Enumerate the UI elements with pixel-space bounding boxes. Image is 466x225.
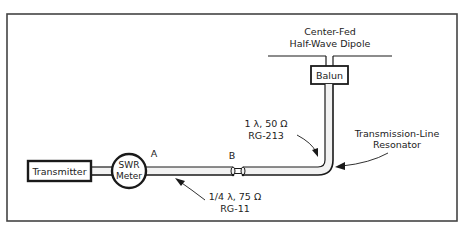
diagram-frame xyxy=(7,14,457,221)
swr-meter-label-line2: Meter xyxy=(116,171,142,181)
one-wave-label-line2: RG-213 xyxy=(248,130,284,141)
point-b-label: B xyxy=(229,150,236,161)
point-a-label: A xyxy=(151,148,158,159)
resonator-label-line2: Resonator xyxy=(373,139,421,150)
one-wave-label-line1: 1 λ, 50 Ω xyxy=(244,118,287,129)
transmitter-label: Transmitter xyxy=(31,166,86,177)
transmitter-swr-cable xyxy=(92,167,112,175)
resonator-label-line1: Transmission-Line xyxy=(354,128,440,139)
swr-meter-label-line1: SWR xyxy=(119,160,140,170)
dipole-label-line1: Center-Fed xyxy=(304,26,356,37)
quarter-wave-label-line2: RG-11 xyxy=(220,203,249,214)
antenna-feed-diagram: Center-Fed Half-Wave Dipole Balun Transm… xyxy=(0,0,466,225)
rg11-cable xyxy=(146,167,235,176)
quarter-wave-label-line1: 1/4 λ, 75 Ω xyxy=(209,191,261,202)
balun-label: Balun xyxy=(316,70,343,81)
dipole-label-line2: Half-Wave Dipole xyxy=(290,38,371,49)
